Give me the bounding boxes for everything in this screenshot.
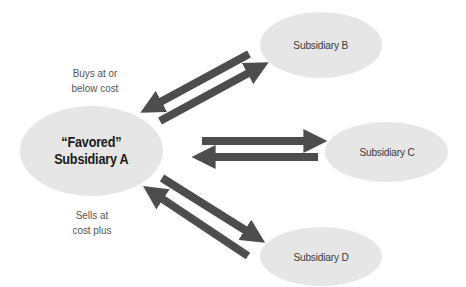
annotation-buys-line2: below cost [55, 81, 136, 96]
annotation-sells-line1: Sells at [52, 208, 133, 223]
diagram-canvas: “Favored” Subsidiary A Subsidiary B Subs… [0, 0, 466, 287]
node-d-label: Subsidiary D [293, 251, 348, 263]
annotation-buys: Buys at or below cost [55, 66, 136, 96]
node-subsidiary-b: Subsidiary B [260, 12, 382, 78]
node-subsidiary-c: Subsidiary C [325, 122, 448, 182]
node-b-label: Subsidiary B [294, 39, 349, 51]
node-a-label-line2: Subsidiary A [54, 151, 128, 168]
node-a-label: “Favored” Subsidiary A [54, 134, 128, 168]
node-c-label: Subsidiary C [359, 146, 414, 158]
node-favored-subsidiary-a: “Favored” Subsidiary A [20, 106, 163, 196]
node-a-label-line1: “Favored” [54, 134, 128, 151]
node-subsidiary-d: Subsidiary D [260, 227, 382, 286]
annotation-buys-line1: Buys at or [55, 66, 136, 81]
annotation-sells-line2: cost plus [52, 223, 133, 238]
annotation-sells: Sells at cost plus [52, 208, 133, 238]
